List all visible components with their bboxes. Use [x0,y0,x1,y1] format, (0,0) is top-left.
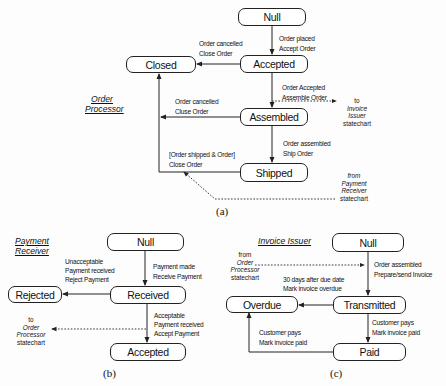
transition-order-accepted: Order Accepted Assemble Order [282,83,327,103]
state-closed: Closed [126,56,196,73]
payment-receiver-title: Payment Receiver [15,236,49,256]
state-null-a: Null [238,8,306,26]
state-accepted-a: Accepted [240,55,308,73]
transition-order-assembled-invoice: Order assembled Prepare/send Invoice [374,260,432,280]
state-received: Received [110,286,186,304]
caption-a: (a) [216,205,228,217]
transition-customer-pays-overdue: Customer pays Mark invoice paid [259,328,307,348]
transition-order-assembled: Order assembled Ship Order [283,139,331,159]
statechart-figure: Order Processor Null Accepted Closed Ass… [0,0,446,386]
state-shipped: Shipped [240,163,308,182]
transition-assembled-cancelled: Order cancelled Cluse Order [175,97,219,117]
state-transmitted: Transmitted [333,296,406,314]
transition-order-shipped: [Order shipped & Order] Close Order [169,150,235,170]
note-from-payment-receiver: from Payment Receiver statechart [333,172,375,202]
state-accepted-b: Accepted [110,343,186,361]
transition-overdue: 30 days after due date Mark invoice over… [283,276,344,293]
transition-acceptable-payment: Acceptable Payment received Accept Payme… [154,311,204,338]
note-from-order-processor: from Order Processor statechart [230,251,260,281]
invoice-issuer-title: Invoice Issuer [258,236,311,246]
transition-customer-pays-transmitted: Customer pays Mark invoice paid [372,318,420,338]
state-null-c: Null [332,233,404,252]
order-processor-title: Order Processor [85,94,124,114]
transition-payment-made: Payment made Receive Payment [153,262,202,282]
state-assembled: Assembled [240,108,308,126]
state-paid: Paid [333,343,406,361]
note-to-order-processor: to Order Processor statechart [12,316,50,346]
state-overdue: Overdue [226,296,298,313]
transition-accepted-cancelled: Order cancelled Close Order [199,39,243,59]
caption-b: (b) [103,367,116,379]
transition-order-placed: Order placed Accept Order [279,34,315,54]
state-null-b: Null [107,233,184,251]
state-rejected: Rejected [8,286,62,303]
transition-unacceptable-payment: Unacceptable Payment received Reject Pay… [65,257,115,284]
caption-c: (c) [330,367,342,379]
note-to-invoice-issuer: to Invoice Issuer statechart [336,97,378,127]
